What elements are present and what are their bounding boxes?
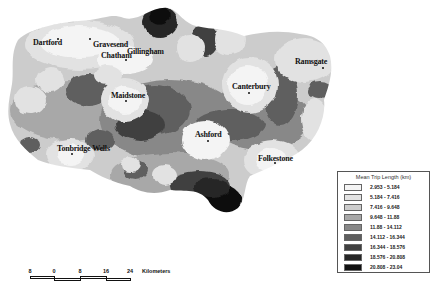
legend-swatch: [344, 254, 362, 261]
legend-label: 18.576 - 20.808: [370, 254, 405, 260]
town-marker: [57, 38, 59, 40]
scale-segment: [80, 276, 107, 279]
legend-row: 16.344 - 18.576: [342, 242, 425, 252]
legend-label: 20.808 - 23.04: [370, 264, 402, 270]
legend-row: 5.184 - 7.416: [342, 192, 425, 202]
town-marker: [125, 100, 127, 102]
town-marker: [125, 59, 127, 61]
town-label-gillingham: Gillingham: [127, 47, 164, 56]
town-marker: [89, 38, 91, 40]
town-label-ashford: Ashford: [195, 130, 222, 139]
scale-bar: 8 0 8 16 24 Kilometers: [30, 268, 170, 282]
legend-label: 11.88 - 14.112: [370, 224, 402, 230]
legend-label: 16.344 - 18.576: [370, 244, 405, 250]
scale-tick: 8: [78, 268, 81, 274]
legend-row: 9.648 - 11.88: [342, 212, 425, 222]
scale-tick: 16: [103, 268, 109, 274]
legend-row: 11.88 - 14.112: [342, 222, 425, 232]
legend-swatch: [344, 194, 362, 201]
legend-label: 14.112 - 16.344: [370, 234, 405, 240]
town-label-tonbridge-wells: Tonbridge Wells: [57, 144, 110, 153]
town-label-ramsgate: Ramsgate: [295, 57, 327, 66]
town-label-gravesend: Gravesend: [93, 40, 128, 49]
town-label-maidstone: Maidstone: [111, 91, 145, 100]
legend-row: 7.416 - 9.648: [342, 202, 425, 212]
legend-label: 5.184 - 7.416: [370, 194, 399, 200]
legend-swatch: [344, 234, 362, 241]
town-marker: [248, 92, 250, 94]
town-marker: [71, 153, 73, 155]
legend-row: 14.112 - 16.344: [342, 232, 425, 242]
legend-swatch: [344, 224, 362, 231]
town-label-canterbury: Canterbury: [232, 82, 270, 91]
legend-row: 20.808 - 23.04: [342, 262, 425, 272]
legend-swatch: [344, 214, 362, 221]
scale-tick: 8: [28, 268, 31, 274]
legend-row: 2.953 - 5.184: [342, 182, 425, 192]
legend-label: 9.648 - 11.88: [370, 214, 399, 220]
legend-row: 18.576 - 20.808: [342, 252, 425, 262]
legend-label: 2.953 - 5.184: [370, 184, 399, 190]
scale-tick: 24: [127, 268, 133, 274]
town-marker: [274, 162, 276, 164]
legend-swatch: [344, 184, 362, 191]
scale-segment: [106, 278, 131, 281]
scale-segment: [30, 276, 55, 279]
town-marker: [207, 140, 209, 142]
map-legend: Mean Trip Length (km) 2.953 - 5.184 5.18…: [337, 171, 430, 273]
legend-title: Mean Trip Length (km): [342, 174, 425, 180]
town-marker: [322, 67, 324, 69]
legend-swatch: [344, 264, 362, 271]
scale-tick: 0: [52, 268, 55, 274]
scale-unit: Kilometers: [142, 268, 170, 274]
legend-swatch: [344, 244, 362, 251]
legend-label: 7.416 - 9.648: [370, 204, 399, 210]
scale-segment: [54, 278, 81, 281]
legend-swatch: [344, 204, 362, 211]
